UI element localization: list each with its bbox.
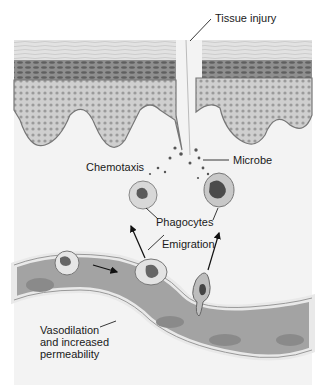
label-phagocytes: Phagocytes	[156, 216, 213, 228]
label-vasodilation: Vasodilation and increased permeability	[40, 324, 110, 360]
label-tissue-injury: Tissue injury	[215, 12, 276, 24]
inflammation-diagram: Tissue injury Chemotaxis Microbe Phagocy…	[0, 0, 320, 390]
label-emigration: Emigration	[162, 238, 215, 250]
label-microbe: Microbe	[233, 154, 272, 166]
tissue-injury-pointer	[190, 19, 211, 41]
phagocyte-right	[204, 173, 234, 207]
leukocyte-adhering	[135, 259, 167, 285]
label-chemotaxis: Chemotaxis	[86, 161, 144, 173]
leukocyte-rolling	[55, 251, 79, 275]
phagocyte-left	[129, 181, 157, 209]
